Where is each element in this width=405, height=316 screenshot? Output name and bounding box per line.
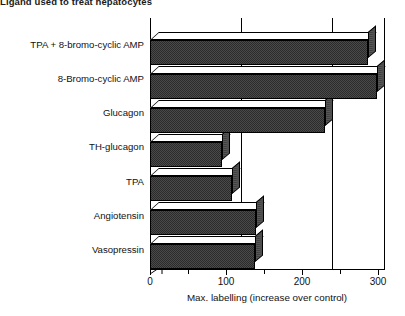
x-axis-line	[150, 269, 385, 270]
xtick-300	[378, 270, 379, 275]
bar-front-face	[150, 108, 325, 133]
bar-side-face	[368, 25, 376, 58]
chart-root: Ligand used to treat hepatocytes TPA + 8…	[0, 0, 405, 316]
bar-top-face	[150, 134, 231, 142]
category-label-glucagon: Glucagon	[103, 108, 144, 118]
plot-area: 0 100 200 300 Max. labelling (increase o…	[150, 18, 385, 270]
bar-front-face	[150, 40, 368, 65]
bar-top-face	[150, 236, 264, 244]
xticklabel-0: 0	[147, 276, 153, 287]
bar-side-face	[255, 229, 263, 262]
category-label-th-glucagon: TH-glucagon	[89, 142, 144, 152]
x-axis-title: Max. labelling (increase over control)	[187, 292, 347, 303]
category-label-tpa-plus-8-bromo-cyclic-amp: TPA + 8-bromo-cyclic AMP	[30, 40, 144, 50]
bar-top-face	[150, 202, 265, 210]
xtick-0	[150, 270, 151, 275]
category-label-angiotensin: Angiotensin	[94, 211, 144, 221]
category-axis-labels: TPA + 8-bromo-cyclic AMP 8-Bromo-cyclic …	[0, 0, 148, 276]
bar-side-face	[256, 195, 264, 228]
xticklabel-100: 100	[218, 276, 235, 287]
bar-top-face	[150, 66, 386, 74]
bar-front-face	[150, 176, 232, 201]
bar-front-face	[150, 74, 377, 99]
bar-top-face	[150, 100, 334, 108]
bar-top-face	[150, 32, 377, 40]
category-label-8-bromo-cyclic-amp: 8-Bromo-cyclic AMP	[58, 74, 144, 84]
bar-front-face	[150, 142, 222, 167]
xtick-250	[340, 270, 341, 274]
category-label-vasopressin: Vasopressin	[92, 245, 144, 255]
xtick-150	[264, 270, 265, 274]
xtick-50	[188, 270, 189, 274]
bar-side-face	[232, 161, 240, 194]
bar-top-face	[150, 168, 241, 176]
bar-front-face	[150, 210, 256, 235]
xtick-200	[302, 270, 303, 275]
category-label-tpa: TPA	[126, 177, 144, 187]
xticklabel-300: 300	[370, 276, 387, 287]
xtick-100	[226, 270, 227, 275]
plot-right-edge	[384, 18, 385, 270]
xticklabel-200: 200	[294, 276, 311, 287]
bar-front-face	[150, 244, 255, 269]
